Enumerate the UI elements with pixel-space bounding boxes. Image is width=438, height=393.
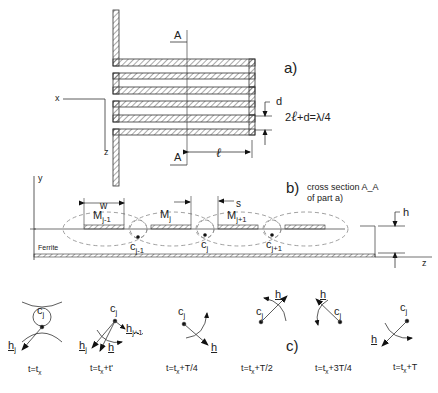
ground-plane bbox=[34, 254, 375, 257]
section-label-bottom: A bbox=[174, 152, 181, 163]
caption-line2: of part a) bbox=[307, 194, 343, 203]
axis-x-label: x bbox=[55, 94, 60, 103]
axis-z-label-a: z bbox=[104, 148, 109, 157]
ferrite-label: Ferrite bbox=[38, 244, 58, 251]
frame3-time: t=tx+T/4 bbox=[166, 364, 198, 373]
panel-b-label: b) bbox=[286, 180, 299, 195]
axis-z-label-b: z bbox=[422, 259, 427, 268]
frame1-center: cj bbox=[37, 305, 44, 316]
center-label-c-j: cj bbox=[201, 239, 208, 250]
frame4-vector: h bbox=[275, 289, 281, 300]
frame5-center: cj bbox=[334, 306, 341, 317]
frame6-time: t=tx+T bbox=[393, 363, 417, 372]
frame6-vector: h bbox=[371, 334, 377, 345]
frame2-time: t=tx+t' bbox=[90, 364, 113, 373]
panel-a-label: a) bbox=[284, 60, 297, 75]
center-label-c-j+1: cj+1 bbox=[266, 239, 282, 250]
axis-y-label: y bbox=[38, 174, 43, 183]
section-label-top: A bbox=[174, 30, 181, 41]
strip-label-m-j-1: Mj-1 bbox=[93, 210, 111, 221]
frame3-vector: h bbox=[211, 342, 217, 353]
frame4-time: t=tx+T/2 bbox=[241, 364, 273, 373]
meander-structure bbox=[113, 10, 255, 186]
dim-d-label: d bbox=[276, 96, 282, 107]
frame3-center: cj bbox=[178, 306, 185, 317]
strip-label-m-j+1: Mj+1 bbox=[227, 210, 247, 221]
equation: 2ℓ+d=λ/4 bbox=[285, 110, 331, 124]
center-label-c-j-1: cj-1 bbox=[130, 241, 144, 252]
dim-s-label: s bbox=[236, 199, 241, 209]
dim-h-label: h bbox=[403, 207, 409, 218]
frame-4 bbox=[259, 296, 287, 324]
strip-label-m-j: Mj bbox=[160, 209, 171, 220]
frame2-vector-hj1: hj+1 bbox=[126, 323, 143, 334]
frame-3 bbox=[182, 313, 208, 345]
frame4-center: cj bbox=[256, 306, 263, 317]
frame6-center: cj bbox=[400, 302, 407, 313]
caption-line1: cross section A_A bbox=[307, 183, 379, 192]
dim-l-label: ℓ bbox=[216, 146, 221, 159]
strips bbox=[84, 225, 325, 229]
frame-6 bbox=[382, 319, 412, 346]
frame1-vector: hj bbox=[8, 340, 16, 351]
frame2-center: cj bbox=[110, 303, 117, 314]
frame5-vector: h bbox=[320, 289, 326, 300]
frame1-time: t=tx bbox=[28, 365, 41, 374]
panel-c-label: c) bbox=[286, 338, 299, 353]
frame2-vector-h: h bbox=[108, 342, 114, 353]
frame2-vector-hj: hj bbox=[79, 340, 87, 351]
frame5-time: t=tx+3T/4 bbox=[315, 364, 352, 373]
